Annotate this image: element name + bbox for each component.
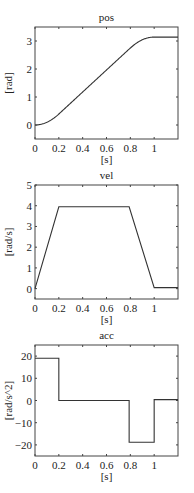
y-tick-label: 0	[27, 395, 33, 407]
plot-area	[35, 27, 178, 139]
x-tick-label: 0.8	[123, 302, 137, 314]
plot-area	[35, 185, 178, 299]
series-line	[35, 207, 178, 289]
chart-title: vel	[100, 169, 113, 181]
y-tick-label: 0	[27, 283, 33, 295]
x-tick-label: 1	[151, 459, 157, 471]
x-tick-label: 0.2	[52, 459, 66, 471]
y-tick-label: 3	[27, 220, 33, 232]
y-tick-label: 2	[27, 241, 33, 253]
y-axis-label: [rad]	[2, 72, 14, 93]
series-line	[35, 37, 178, 125]
y-axis-label: [rad/s]	[2, 228, 14, 257]
y-tick-label: 2	[27, 63, 33, 75]
y-tick-label: 1	[27, 262, 33, 274]
y-axis-label: [rad/s^2]	[2, 381, 14, 420]
x-tick-label: 0.4	[76, 302, 90, 314]
chart-acc: acc00.20.40.60.81−20−1001020[s][rad/s^2]	[2, 329, 178, 482]
y-tick-label: 0	[27, 119, 33, 131]
y-tick-label: 4	[27, 200, 33, 212]
x-tick-label: 0.8	[123, 142, 137, 154]
x-tick-label: 0.4	[76, 459, 90, 471]
x-tick-label: 0.4	[76, 142, 90, 154]
x-tick-label: 0.2	[52, 142, 66, 154]
y-tick-label: 3	[27, 35, 33, 47]
x-axis-label: [s]	[101, 470, 113, 482]
chart-title: acc	[99, 329, 114, 341]
y-tick-label: 1	[27, 91, 33, 103]
series-line	[35, 358, 178, 442]
figure: pos00.20.40.60.810123[s][rad]vel00.20.40…	[0, 0, 194, 493]
y-tick-label: 5	[27, 179, 33, 191]
x-tick-label: 0	[32, 459, 38, 471]
x-tick-label: 0.2	[52, 302, 66, 314]
y-tick-label: −10	[15, 417, 33, 429]
y-tick-label: 20	[21, 350, 33, 362]
x-tick-label: 1	[151, 302, 157, 314]
chart-title: pos	[99, 11, 114, 23]
x-tick-label: 0.8	[123, 459, 137, 471]
y-tick-label: 10	[21, 372, 33, 384]
x-tick-label: 0	[32, 302, 38, 314]
y-tick-label: −20	[15, 439, 33, 451]
x-axis-label: [s]	[101, 153, 113, 165]
x-tick-label: 1	[151, 142, 157, 154]
chart-pos: pos00.20.40.60.810123[s][rad]	[2, 11, 178, 165]
chart-vel: vel00.20.40.60.81012345[s][rad/s]	[2, 169, 178, 325]
x-axis-label: [s]	[101, 313, 113, 325]
x-tick-label: 0	[32, 142, 38, 154]
